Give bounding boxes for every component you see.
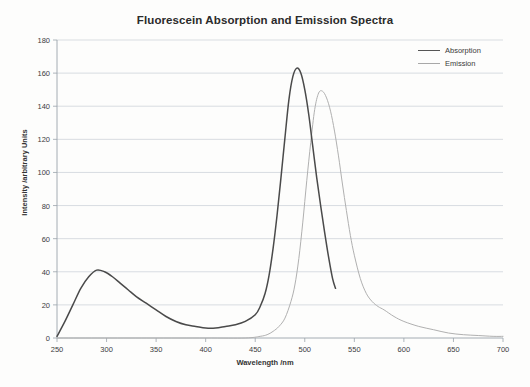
y-tick-label: 20 (20, 300, 50, 309)
y-tick-label: 180 (20, 36, 50, 45)
legend-swatch-emission-icon (418, 63, 440, 64)
y-tick-label: 40 (20, 267, 50, 276)
x-tick-label: 450 (249, 345, 262, 354)
x-tick-label: 300 (100, 345, 113, 354)
x-tick-label: 500 (299, 345, 312, 354)
y-tick-label: 160 (20, 69, 50, 78)
chart-container: Fluorescein Absorption and Emission Spec… (0, 0, 530, 387)
legend-item-absorption: Absorption (418, 44, 518, 57)
x-tick-label: 400 (199, 345, 212, 354)
gridlines (57, 40, 503, 305)
tick-marks (53, 40, 503, 342)
x-tick-label: 700 (497, 345, 510, 354)
x-tick-label: 350 (150, 345, 163, 354)
x-tick-label: 550 (348, 345, 361, 354)
x-tick-label: 600 (398, 345, 411, 354)
y-tick-label: 0 (20, 334, 50, 343)
legend-swatch-absorption-icon (418, 50, 440, 51)
legend-label-absorption: Absorption (445, 46, 481, 55)
data-series (57, 68, 503, 338)
x-tick-label: 250 (51, 345, 64, 354)
y-axis-title: Intensity /arbitrary Units (20, 103, 29, 243)
x-tick-label: 650 (447, 345, 460, 354)
chart-legend: Absorption Emission (418, 44, 518, 70)
legend-item-emission: Emission (418, 57, 518, 70)
x-axis-title: Wavelength /nm (0, 358, 530, 367)
legend-label-emission: Emission (445, 59, 475, 68)
